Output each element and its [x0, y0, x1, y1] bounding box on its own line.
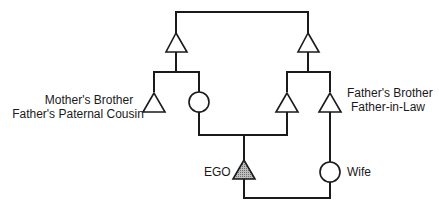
right-descent-line	[287, 52, 330, 92]
left-descent-line	[154, 52, 199, 92]
father-triangle-icon	[276, 93, 298, 112]
top-sibling-line	[176, 12, 308, 33]
right-label-line1: Father's Brother	[347, 86, 433, 100]
right-label-line2: Father-in-Law	[351, 100, 425, 114]
ego-wife-marriage-line	[244, 179, 330, 198]
ego-triangle-icon	[233, 160, 255, 179]
left-label-line1: Mother's Brother	[45, 93, 133, 107]
mothers-brother-triangle-icon	[143, 93, 165, 112]
left-label-line2: Father's Paternal Cousin	[12, 107, 144, 121]
wife-circle-icon	[320, 162, 340, 182]
ego-label: EGO	[204, 165, 231, 179]
kinship-diagram: Mother's Brother Father's Paternal Cousi…	[0, 0, 439, 209]
right-grandparent-triangle-icon	[298, 33, 319, 52]
fathers-brother-triangle-icon	[319, 93, 341, 112]
left-grandparent-triangle-icon	[166, 33, 187, 52]
wife-label: Wife	[347, 165, 371, 179]
mother-circle-icon	[189, 92, 209, 112]
parents-marriage-line	[199, 112, 287, 160]
